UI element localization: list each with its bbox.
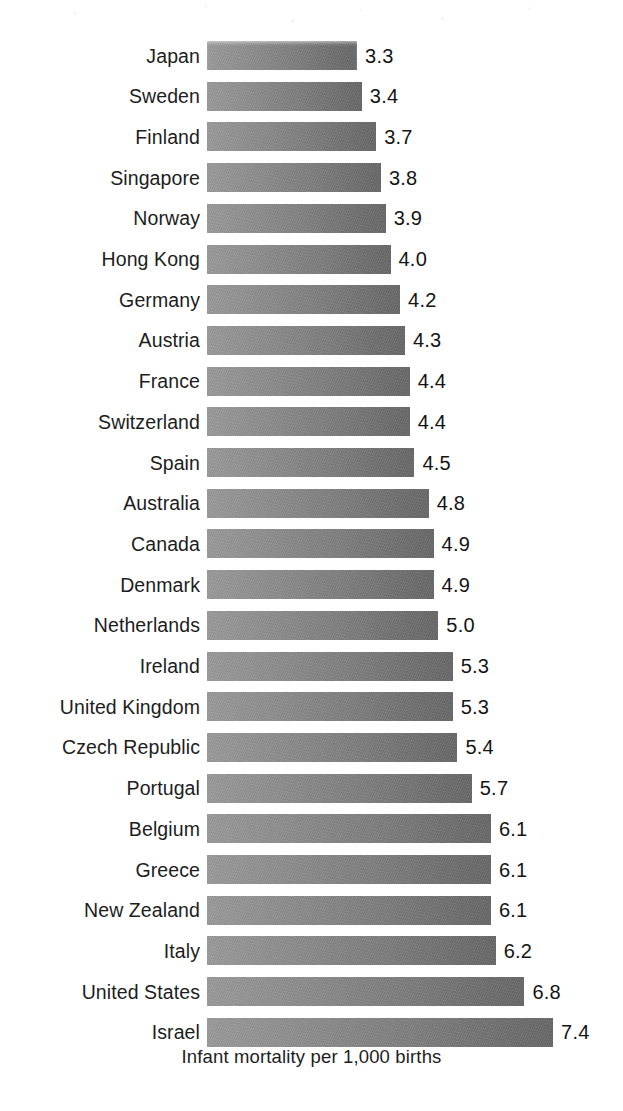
bar xyxy=(207,1018,553,1047)
bar-value-label: 4.9 xyxy=(442,532,470,555)
bar-row: Switzerland4.4 xyxy=(0,407,623,436)
category-label: Sweden xyxy=(129,85,200,108)
bar-value-label: 3.8 xyxy=(389,166,417,189)
bar xyxy=(207,896,491,925)
bar-row: Austria4.3 xyxy=(0,326,623,355)
bar-row: Hong Kong4.0 xyxy=(0,245,623,274)
bar-row: Netherlands5.0 xyxy=(0,611,623,640)
bar xyxy=(207,326,405,355)
category-label: Ireland xyxy=(140,655,200,678)
category-label: Italy xyxy=(164,939,200,962)
bar-row: Germany4.2 xyxy=(0,285,623,314)
bar xyxy=(207,774,472,803)
bar-value-label: 6.2 xyxy=(504,939,532,962)
category-label: Austria xyxy=(139,329,200,352)
bar xyxy=(207,448,414,477)
bar-chart: Japan3.3Sweden3.4Finland3.7Singapore3.8N… xyxy=(0,0,623,1111)
bar-value-label: 4.4 xyxy=(418,410,446,433)
bar xyxy=(207,489,429,518)
category-label: United Kingdom xyxy=(60,695,200,718)
bar-value-label: 6.1 xyxy=(499,899,527,922)
category-label: Germany xyxy=(119,288,200,311)
bar-value-label: 7.4 xyxy=(561,1021,589,1044)
bar-value-label: 5.3 xyxy=(461,695,489,718)
bar-row: Denmark4.9 xyxy=(0,570,623,599)
category-label: Spain xyxy=(150,451,200,474)
bar xyxy=(207,733,457,762)
bar xyxy=(207,692,453,721)
bar-value-label: 4.0 xyxy=(399,248,427,271)
bar xyxy=(207,204,386,233)
bar-row: Sweden3.4 xyxy=(0,82,623,111)
bar-value-label: 4.8 xyxy=(437,492,465,515)
bar-row: Italy6.2 xyxy=(0,936,623,965)
bar-row: Greece6.1 xyxy=(0,855,623,884)
bar xyxy=(207,122,376,151)
category-label: Greece xyxy=(135,858,200,881)
category-label: Portugal xyxy=(127,777,200,800)
bar-value-label: 6.1 xyxy=(499,858,527,881)
category-label: Switzerland xyxy=(98,410,200,433)
category-label: Hong Kong xyxy=(102,248,200,271)
bar-row: Portugal5.7 xyxy=(0,774,623,803)
category-label: Finland xyxy=(135,125,200,148)
bar-value-label: 6.8 xyxy=(532,980,560,1003)
category-label: Norway xyxy=(133,207,200,230)
bar-row: Singapore3.8 xyxy=(0,163,623,192)
category-label: Singapore xyxy=(110,166,200,189)
bar-row: Norway3.9 xyxy=(0,204,623,233)
bar-value-label: 4.2 xyxy=(408,288,436,311)
bar-row: France4.4 xyxy=(0,367,623,396)
bar-value-label: 5.7 xyxy=(480,777,508,800)
category-label: Netherlands xyxy=(94,614,200,637)
category-label: Canada xyxy=(131,532,200,555)
bar-row: Czech Republic5.4 xyxy=(0,733,623,762)
bar xyxy=(207,814,491,843)
bar-value-label: 3.9 xyxy=(394,207,422,230)
bar-value-label: 3.7 xyxy=(384,125,412,148)
bar xyxy=(207,611,438,640)
bar-row: New Zealand6.1 xyxy=(0,896,623,925)
category-label: Belgium xyxy=(129,817,200,840)
category-label: Czech Republic xyxy=(62,736,200,759)
bar xyxy=(207,936,496,965)
bar-value-label: 4.9 xyxy=(442,573,470,596)
bar-value-label: 5.4 xyxy=(465,736,493,759)
bar-row: Canada4.9 xyxy=(0,529,623,558)
bar-row: Israel7.4 xyxy=(0,1018,623,1047)
bar xyxy=(207,245,391,274)
category-label: New Zealand xyxy=(84,899,200,922)
category-label: Japan xyxy=(146,44,200,67)
chart-x-axis-label: Infant mortality per 1,000 births xyxy=(0,1046,623,1068)
bar xyxy=(207,652,453,681)
bar xyxy=(207,41,357,70)
bar-value-label: 6.1 xyxy=(499,817,527,840)
bar-value-label: 3.4 xyxy=(370,85,398,108)
bar-row: United Kingdom5.3 xyxy=(0,692,623,721)
bar-value-label: 5.3 xyxy=(461,655,489,678)
bar-row: Japan3.3 xyxy=(0,41,623,70)
bar-value-label: 4.5 xyxy=(422,451,450,474)
category-label: France xyxy=(139,370,200,393)
bar-value-label: 4.3 xyxy=(413,329,441,352)
bar xyxy=(207,570,434,599)
category-label: Australia xyxy=(123,492,200,515)
bar xyxy=(207,285,400,314)
bar-row: United States6.8 xyxy=(0,977,623,1006)
bar-value-label: 3.3 xyxy=(365,44,393,67)
bar-value-label: 5.0 xyxy=(446,614,474,637)
category-label: Israel xyxy=(152,1021,200,1044)
bar-row: Finland3.7 xyxy=(0,122,623,151)
bar xyxy=(207,407,410,436)
bar-row: Spain4.5 xyxy=(0,448,623,477)
bar-row: Belgium6.1 xyxy=(0,814,623,843)
bar-row: Ireland5.3 xyxy=(0,652,623,681)
bar xyxy=(207,977,524,1006)
bar xyxy=(207,529,434,558)
bar xyxy=(207,367,410,396)
category-label: Denmark xyxy=(120,573,200,596)
bar xyxy=(207,82,362,111)
bar xyxy=(207,855,491,884)
bar xyxy=(207,163,381,192)
bar-row: Australia4.8 xyxy=(0,489,623,518)
